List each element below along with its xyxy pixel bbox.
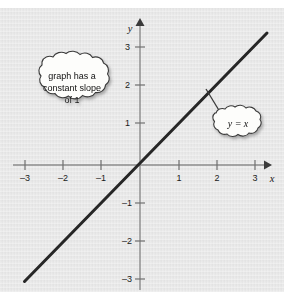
y-tick-label-2: 2: [125, 80, 130, 90]
slope-callout: graph has a constant slope of 1: [39, 51, 109, 105]
x-axis-arrow-icon: [264, 161, 272, 170]
equation-callout: y = x: [213, 105, 261, 136]
y-tick-label--1: –1: [122, 198, 132, 208]
y-tick-label--2: –2: [122, 236, 132, 246]
slope-callout-line-3: of 1: [64, 95, 79, 105]
y-axis-tick-labels: 3 2 1 –1 –2 –3: [122, 42, 132, 284]
slope-callout-line-2: constant slope: [43, 83, 101, 93]
x-tick-label-2: 2: [214, 173, 219, 183]
equation-callout-leader-line: [206, 89, 220, 112]
x-tick-label-3: 3: [252, 173, 257, 183]
x-tick-label--2: –2: [58, 173, 68, 183]
y-tick-label--3: –3: [122, 274, 132, 284]
y-tick-label-1: 1: [125, 118, 130, 128]
coordinate-plane-chart: –3 –2 –1 1 2 3 3 2 1 –1 –2 –3 x y graph …: [0, 0, 284, 300]
y-axis-label: y: [127, 23, 133, 34]
x-tick-label--1: –1: [96, 173, 106, 183]
slope-callout-line-1: graph has a: [48, 71, 96, 81]
x-tick-label-1: 1: [176, 173, 181, 183]
y-axis-arrow-icon: [136, 18, 145, 26]
x-axis-label: x: [269, 173, 275, 184]
x-tick-label--3: –3: [20, 173, 30, 183]
x-axis-tick-labels: –3 –2 –1 1 2 3: [20, 173, 258, 183]
figure-container: –3 –2 –1 1 2 3 3 2 1 –1 –2 –3 x y graph …: [0, 0, 284, 300]
y-tick-label-3: 3: [125, 42, 130, 52]
equation-callout-text: y = x: [227, 118, 249, 129]
